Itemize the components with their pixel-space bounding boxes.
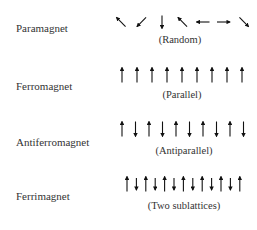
spin-arrow-down-right [239,17,248,26]
spin-arrow-up-left [178,17,187,26]
paramagnet-arrows [116,16,248,29]
antiferromagnet-arrows [122,122,244,137]
spin-arrow-down-left [137,17,146,26]
spin-arrows [0,0,257,230]
ferrimagnet-arrows [127,177,240,192]
spin-arrow-up-left [116,17,125,26]
ferromagnet-arrows [122,68,242,83]
